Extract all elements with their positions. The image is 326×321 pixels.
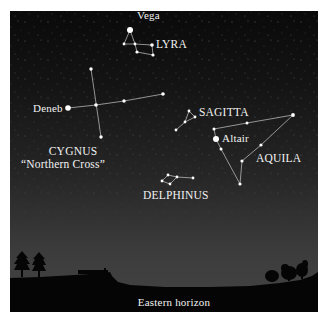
star-altair <box>213 136 219 142</box>
star-chart: Vega LYRA Deneb CYGNUS “Northern Cross” … <box>10 11 318 312</box>
star-deneb <box>65 105 71 111</box>
label-altair: Altair <box>222 133 249 144</box>
label-cygnus-alias: “Northern Cross” <box>21 159 105 171</box>
label-deneb: Deneb <box>33 103 63 114</box>
label-delphinus: DELPHINUS <box>143 190 209 202</box>
label-vega: Vega <box>137 11 160 21</box>
star-vega <box>127 27 133 33</box>
label-lyra: LYRA <box>156 39 187 51</box>
label-eastern-horizon: Eastern horizon <box>138 297 210 308</box>
label-aquila: AQUILA <box>256 153 301 165</box>
label-cygnus: CYGNUS <box>49 146 98 158</box>
label-sagitta: SAGITTA <box>199 107 249 119</box>
